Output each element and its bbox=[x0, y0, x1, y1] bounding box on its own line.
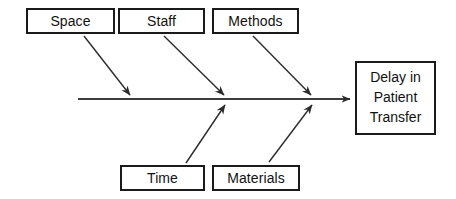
cause-box-materials[interactable]: Materials bbox=[212, 165, 300, 191]
cause-label-staff: Staff bbox=[147, 14, 176, 28]
bone-staff bbox=[164, 36, 224, 95]
cause-label-space: Space bbox=[50, 14, 90, 28]
cause-label-methods: Methods bbox=[228, 14, 282, 28]
effect-box[interactable]: Delay in Patient Transfer bbox=[355, 61, 436, 135]
effect-label-line-1: Delay in bbox=[370, 68, 421, 88]
cause-box-methods[interactable]: Methods bbox=[212, 8, 299, 34]
bone-space bbox=[84, 36, 130, 95]
bone-materials bbox=[269, 105, 312, 162]
fishbone-diagram-canvas: Space Staff Methods Time Materials Delay… bbox=[0, 0, 456, 199]
cause-label-materials: Materials bbox=[227, 171, 285, 185]
cause-box-time[interactable]: Time bbox=[120, 165, 205, 191]
cause-box-space[interactable]: Space bbox=[26, 8, 115, 34]
cause-label-time: Time bbox=[147, 171, 178, 185]
effect-label-line-2: Patient bbox=[374, 88, 418, 108]
effect-label-line-3: Transfer bbox=[370, 108, 422, 128]
bone-methods bbox=[253, 36, 311, 95]
cause-box-staff[interactable]: Staff bbox=[118, 8, 205, 34]
bone-time bbox=[186, 105, 225, 163]
